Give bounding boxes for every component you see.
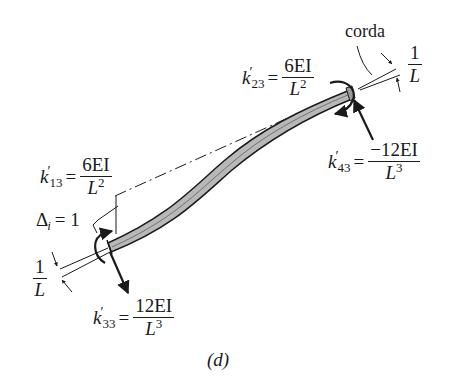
stiffness-k43: k′43 = −12EI L3 <box>328 140 420 182</box>
denominator-base: L <box>289 78 300 99</box>
delta-value: = 1 <box>55 210 80 229</box>
chord-label: corda <box>345 22 385 40</box>
fraction: 12EI L3 <box>133 296 174 338</box>
beam-stiffness-diagram: corda 1 L k′23 = 6EI L2 k′43 = −12EI L3 … <box>0 0 452 387</box>
right-shear-arrow <box>354 100 373 140</box>
denominator-exponent: 2 <box>300 76 307 91</box>
fraction: −12EI L3 <box>368 140 420 182</box>
fraction-denominator: L <box>409 65 420 85</box>
equals-sign: = <box>119 308 130 327</box>
fraction-numerator: 1 <box>408 43 422 65</box>
chord-label-text: corda <box>345 21 385 41</box>
deflected-beam <box>107 86 355 254</box>
subscript: 13 <box>50 176 63 189</box>
denominator-base: L <box>87 177 98 198</box>
fraction: 6EI L2 <box>80 155 111 197</box>
fraction-numerator: 12EI <box>133 296 174 318</box>
right-rotation-label: 1 L <box>408 43 422 85</box>
stiffness-k13: k′13 = 6EI L2 <box>40 155 112 197</box>
displacement-label: Δi = 1 <box>36 210 80 229</box>
fraction-numerator: −12EI <box>368 140 420 162</box>
equals-sign: = <box>268 68 279 87</box>
fraction-numerator: 6EI <box>80 155 111 177</box>
left-shear-arrow <box>110 252 128 293</box>
stiffness-k33: k′33 = 12EI L3 <box>93 296 174 338</box>
left-rotation-label: 1 L <box>33 257 47 299</box>
denominator-exponent: 3 <box>396 160 403 175</box>
displacement-bracket <box>93 196 118 234</box>
left-rotation-fraction: 1 L <box>33 257 47 299</box>
delta-subscript: i <box>47 219 51 232</box>
denominator-exponent: 2 <box>98 175 105 190</box>
fraction-numerator: 1 <box>33 257 47 279</box>
fraction: 6EI L2 <box>282 56 313 98</box>
right-rotation-reference-lines <box>357 46 400 92</box>
equals-sign: = <box>66 167 77 186</box>
caption-text: (d) <box>207 349 229 370</box>
denominator-base: L <box>386 162 397 183</box>
left-rotation-reference-lines <box>52 248 110 292</box>
denominator-exponent: 3 <box>156 316 163 331</box>
fraction-numerator: 6EI <box>282 56 313 78</box>
right-rotation-fraction: 1 L <box>408 43 422 85</box>
subscript: 23 <box>252 77 265 90</box>
figure-caption: (d) <box>207 350 229 369</box>
denominator-base: L <box>145 318 156 339</box>
stiffness-k23: k′23 = 6EI L2 <box>242 56 314 98</box>
equals-sign: = <box>354 152 365 171</box>
subscript: 43 <box>338 161 351 174</box>
fraction-denominator: L <box>34 279 45 299</box>
subscript: 33 <box>103 317 116 330</box>
